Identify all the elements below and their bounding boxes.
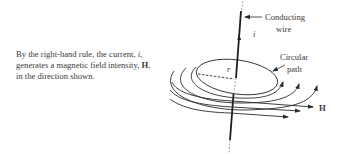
wire-label-line1: Conducting [265, 12, 306, 22]
radius-line [198, 74, 234, 79]
path-leader-arrow [273, 65, 285, 71]
wire-label-line2: wire [276, 24, 291, 34]
radius-label: r [227, 64, 231, 74]
right-hand-rule-diagram: r i Conducting wire Circular path H [0, 0, 340, 154]
wire-dashed-top [241, 1, 243, 12]
field-line-6 [170, 99, 288, 117]
conducting-wire-upper [236, 11, 241, 78]
path-label-line1: Circular [280, 52, 308, 62]
current-label: i [253, 29, 256, 39]
field-label: H [319, 103, 326, 113]
wire-dashed-bottom [229, 140, 230, 153]
wire-dashed-middle [234, 78, 237, 95]
current-arrow-icon [237, 34, 241, 40]
path-label-line2: path [287, 64, 302, 74]
